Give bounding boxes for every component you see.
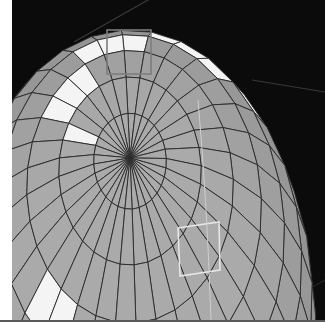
mesh-face[interactable] [123, 35, 149, 52]
sphere-faces[interactable] [12, 30, 316, 320]
panel-edge-bottom [0, 322, 325, 328]
panel-edge-left [0, 0, 12, 321]
3d-viewport[interactable] [12, 0, 325, 320]
sphere-mesh-canvas[interactable] [12, 0, 325, 320]
